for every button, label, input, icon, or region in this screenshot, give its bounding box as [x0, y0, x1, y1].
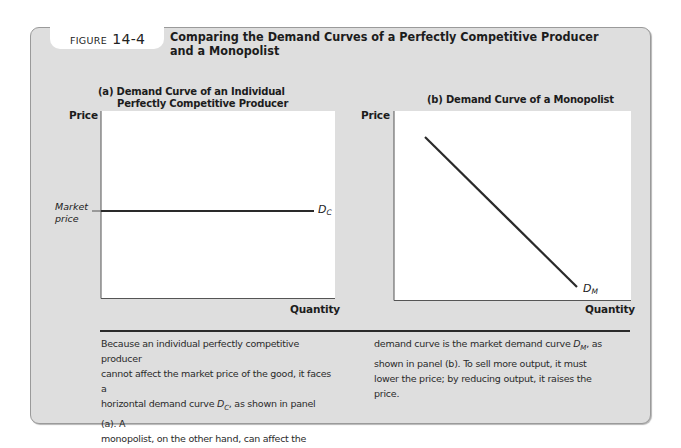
panel-a-plot-area: [101, 111, 335, 298]
figure-label-prefix: FIGURE: [70, 35, 107, 46]
caption-left-line3: horizontal demand curve DC, as shown in …: [101, 396, 333, 431]
demand-curve-dc-label: DC: [318, 203, 332, 217]
panel-b-x-axis-label: Quantity: [585, 303, 635, 315]
dc-subscript: C: [326, 208, 331, 217]
panel-b-plot-area: [394, 111, 631, 300]
caption-right-line1: demand curve is the market demand curve …: [374, 336, 634, 356]
figure-label-number: 14-4: [112, 31, 145, 47]
demand-curve-dm-label: DM: [583, 282, 598, 296]
caption-text: horizontal demand curve: [101, 398, 217, 409]
figure-title-line1: Comparing the Demand Curves of a Perfect…: [170, 30, 620, 44]
caption-left-line1: Because an individual perfectly competit…: [101, 336, 333, 366]
caption-right-line2: shown in panel (b). To sell more output,…: [374, 356, 634, 371]
figure-title-line2: and a Monopolist: [170, 44, 620, 58]
panel-b-title: (b) Demand Curve of a Monopolist: [427, 94, 614, 106]
caption-text: , as: [586, 338, 602, 349]
figure-page: FIGURE 14-4 Comparing the Demand Curves …: [0, 0, 681, 448]
caption-left-column: Because an individual perfectly competit…: [101, 336, 333, 448]
caption-left-line2: cannot affect the market price of the go…: [101, 366, 333, 396]
market-price-label: Market price: [55, 201, 88, 225]
caption-divider: [100, 330, 630, 332]
panel-a-title-line1: (a) Demand Curve of an Individual: [98, 86, 288, 98]
panel-b-y-axis-label: Price: [361, 109, 390, 121]
panel-a-title-line2: Perfectly Competitive Producer: [98, 98, 288, 110]
caption-left-line4: monopolist, on the other hand, can affec…: [101, 431, 333, 448]
panel-a-x-axis-label: Quantity: [290, 303, 340, 315]
figure-title: Comparing the Demand Curves of a Perfect…: [170, 30, 620, 58]
market-price-label-line1: Market: [55, 201, 88, 213]
panel-a-title: (a) Demand Curve of an Individual Perfec…: [98, 86, 288, 110]
panel-a-y-axis-label: Price: [69, 109, 98, 121]
caption-right-line4: price.: [374, 386, 634, 401]
caption-text: demand curve is the market demand curve: [374, 338, 573, 349]
figure-label: FIGURE 14-4: [70, 31, 145, 47]
caption-right-line3: lower the price; by reducing output, it …: [374, 371, 634, 386]
market-price-label-line2: price: [55, 213, 88, 225]
dm-subscript: M: [591, 287, 597, 296]
caption-right-column: demand curve is the market demand curve …: [374, 336, 634, 401]
